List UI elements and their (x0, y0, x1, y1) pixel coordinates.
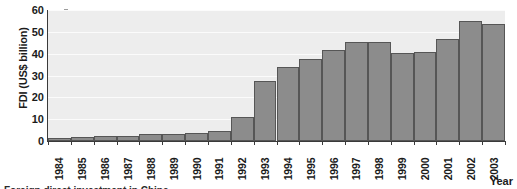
bar (368, 42, 391, 141)
x-tick-label: 1998 (373, 152, 385, 186)
y-tick-label: 0 (38, 135, 44, 147)
x-tick-label: 1994 (282, 152, 294, 186)
x-tick-mark (254, 141, 255, 145)
bar (482, 24, 505, 141)
y-tick-label: 60 (32, 4, 44, 16)
x-tick-label: 1987 (122, 152, 134, 186)
bars-layer (48, 10, 505, 141)
x-tick-label: 1984 (53, 152, 65, 186)
x-tick-mark (277, 141, 278, 145)
x-tick-mark (322, 141, 323, 145)
x-tick-label: 1992 (236, 152, 248, 186)
x-tick-label: 1999 (396, 152, 408, 186)
x-tick-label: 1985 (76, 152, 88, 186)
figure-caption: Foreign direct investment in China (4, 185, 168, 189)
bar (391, 53, 414, 141)
x-tick-mark (299, 141, 300, 145)
x-tick-label: 1993 (259, 152, 271, 186)
bar (436, 39, 459, 141)
x-tick-mark (505, 141, 506, 145)
y-axis-tick-labels: 0102030405060 (20, 0, 44, 189)
x-axis-title: Year (490, 175, 513, 187)
plot-area (48, 10, 505, 141)
x-tick-mark (414, 141, 415, 145)
x-tick-mark (231, 141, 232, 145)
fdi-bar-chart: FDI (US$ billion) 0102030405060 19841985… (0, 0, 517, 189)
bar (254, 81, 277, 141)
x-tick-mark (368, 141, 369, 145)
bar (322, 50, 345, 141)
x-tick-label: 2002 (465, 152, 477, 186)
x-tick-label: 1988 (145, 152, 157, 186)
y-tick-label: 10 (32, 113, 44, 125)
bar (162, 134, 185, 141)
bar (208, 131, 231, 141)
bar (345, 42, 368, 141)
y-tick-label: 50 (32, 26, 44, 38)
x-tick-mark (48, 141, 49, 145)
x-tick-mark (436, 141, 437, 145)
bar (414, 52, 437, 141)
x-tick-label: 2001 (442, 152, 454, 186)
x-tick-mark (391, 141, 392, 145)
x-tick-label: 1997 (350, 152, 362, 186)
x-tick-label: 1996 (328, 152, 340, 186)
x-tick-label: 1989 (168, 152, 180, 186)
x-tick-mark (208, 141, 209, 145)
bar (139, 134, 162, 141)
x-tick-mark (162, 141, 163, 145)
x-tick-label: 1986 (99, 152, 111, 186)
x-tick-mark (94, 141, 95, 145)
bar (231, 117, 254, 141)
x-tick-mark (185, 141, 186, 145)
bar (459, 21, 482, 141)
x-tick-mark (117, 141, 118, 145)
y-tick-label: 20 (32, 91, 44, 103)
x-tick-label: 1995 (305, 152, 317, 186)
x-tick-label: 1990 (191, 152, 203, 186)
x-tick-mark (345, 141, 346, 145)
x-tick-mark (139, 141, 140, 145)
y-tick-label: 30 (32, 70, 44, 82)
bar (277, 67, 300, 141)
x-tick-label: 2000 (419, 152, 431, 186)
x-tick-mark (71, 141, 72, 145)
bar (185, 133, 208, 141)
y-tick-label: 40 (32, 48, 44, 60)
x-tick-mark (482, 141, 483, 145)
x-tick-label: 1991 (213, 152, 225, 186)
x-axis-tick-labels: 1984198519861987198819891990199119921993… (48, 141, 505, 185)
x-tick-mark (459, 141, 460, 145)
bar (299, 59, 322, 141)
